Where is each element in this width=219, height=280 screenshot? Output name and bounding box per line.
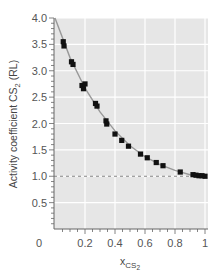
x-axis-title-subsub: 2 bbox=[136, 264, 140, 271]
data-point bbox=[138, 151, 143, 156]
x-tick-label: 0.2 bbox=[77, 237, 92, 249]
y-tick-label: 1.5 bbox=[32, 144, 47, 156]
y-tick-label: 2.0 bbox=[32, 118, 47, 130]
y-tick-label: 4.0 bbox=[32, 12, 47, 24]
data-point bbox=[94, 103, 99, 108]
y-axis-title-suffix: (RL) bbox=[7, 60, 19, 83]
data-point bbox=[126, 144, 131, 149]
activity-coefficient-chart: 0.51.01.52.02.53.03.54.0 0.20.40.60.81 0… bbox=[0, 0, 219, 280]
y-axis-ticks: 0.51.01.52.02.53.03.54.0 bbox=[32, 12, 54, 224]
y-tick-label: 3.5 bbox=[32, 38, 47, 50]
y-axis-title: Activity coefficient CS2 (RL) bbox=[7, 60, 22, 188]
x-origin-label: 0 bbox=[36, 237, 42, 249]
data-point bbox=[178, 169, 183, 174]
x-axis-title: xCS2 bbox=[120, 255, 140, 271]
data-point bbox=[119, 138, 124, 143]
y-tick-label: 2.5 bbox=[32, 91, 47, 103]
data-point bbox=[104, 121, 109, 126]
data-point bbox=[82, 81, 87, 86]
x-axis-title-sub: CS bbox=[125, 261, 136, 270]
data-point bbox=[81, 86, 86, 91]
data-point bbox=[154, 160, 159, 165]
data-point bbox=[61, 43, 66, 48]
y-tick-label: 0.5 bbox=[32, 197, 47, 209]
data-point bbox=[112, 131, 117, 136]
x-tick-label: 0.4 bbox=[107, 237, 122, 249]
x-tick-label: 0.6 bbox=[137, 237, 152, 249]
x-tick-label: 0.8 bbox=[167, 237, 182, 249]
y-axis-title-main: Activity coefficient CS bbox=[7, 87, 19, 188]
data-point bbox=[160, 163, 165, 168]
y-tick-label: 3.0 bbox=[32, 65, 47, 77]
data-point bbox=[202, 174, 207, 179]
y-tick-label: 1.0 bbox=[32, 170, 47, 182]
data-point bbox=[70, 62, 75, 67]
x-axis-ticks: 0.20.40.60.81 bbox=[63, 229, 209, 249]
data-point bbox=[145, 155, 150, 160]
x-tick-label: 1 bbox=[202, 237, 208, 249]
